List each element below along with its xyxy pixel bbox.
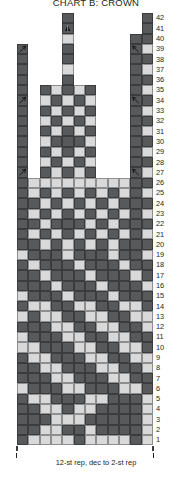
cell-dark [130, 157, 141, 167]
cell-light [108, 363, 119, 373]
cell-light [17, 311, 28, 321]
cell-light [119, 383, 130, 393]
cell-light [51, 435, 62, 445]
cell-no-stitch [28, 126, 39, 136]
cell-light [119, 435, 130, 445]
cell-light [96, 311, 107, 321]
cell-dark [85, 106, 96, 116]
cell-light [130, 383, 141, 393]
cell-light [142, 229, 153, 239]
cell-no-stitch [74, 13, 85, 23]
row-number: 15 [156, 292, 178, 299]
cell-light [62, 239, 73, 249]
cell-dark [17, 209, 28, 219]
cell-light [62, 322, 73, 332]
cell-dark [142, 342, 153, 352]
cell-light [40, 95, 51, 105]
cell-no-stitch [40, 64, 51, 74]
cell-no-stitch [85, 54, 96, 64]
cell-k2tog-decrease [130, 44, 141, 54]
cell-dark [74, 291, 85, 301]
cell-no-stitch [40, 44, 51, 54]
cell-light [74, 178, 85, 188]
cell-light [130, 353, 141, 363]
cell-light [85, 239, 96, 249]
cell-light [85, 157, 96, 167]
cell-no-stitch [108, 54, 119, 64]
row-number: 23 [156, 210, 178, 217]
cell-dark [142, 332, 153, 342]
cell-dark [74, 311, 85, 321]
cell-light [96, 178, 107, 188]
cell-dark [85, 281, 96, 291]
cell-ssk-decrease [17, 44, 28, 54]
cell-dark [40, 126, 51, 136]
cell-dark [28, 322, 39, 332]
row-number: 22 [156, 220, 178, 227]
cell-no-stitch [51, 64, 62, 74]
cell-no-stitch [130, 13, 141, 23]
cell-light [74, 188, 85, 198]
cell-dark [17, 188, 28, 198]
cell-no-stitch [85, 44, 96, 54]
cell-light [108, 178, 119, 188]
cell-light [108, 250, 119, 260]
cell-dark [40, 188, 51, 198]
cell-centered-double-decrease [62, 23, 73, 33]
cell-dark [62, 13, 73, 23]
cell-dark [96, 239, 107, 249]
cell-no-stitch [96, 34, 107, 44]
cell-dark [74, 198, 85, 208]
cell-dark [51, 383, 62, 393]
cell-no-stitch [28, 116, 39, 126]
cell-dark [62, 281, 73, 291]
cell-dark [108, 209, 119, 219]
cell-light [51, 209, 62, 219]
cell-no-stitch [51, 54, 62, 64]
cell-no-stitch [108, 95, 119, 105]
cell-dark [130, 219, 141, 229]
cell-dark [74, 363, 85, 373]
cell-dark [28, 404, 39, 414]
cell-dark [108, 311, 119, 321]
cell-dark [119, 239, 130, 249]
cell-light [40, 435, 51, 445]
cell-dark [130, 435, 141, 445]
cell-dark [96, 332, 107, 342]
cell-light [40, 270, 51, 280]
cell-dark [119, 414, 130, 424]
cell-dark [142, 260, 153, 270]
cell-dark [62, 126, 73, 136]
cell-dark [74, 281, 85, 291]
cell-dark [119, 219, 130, 229]
cell-dark [40, 322, 51, 332]
cell-dark [130, 332, 141, 342]
cell-dark [62, 301, 73, 311]
cell-dark [17, 322, 28, 332]
cell-light [51, 229, 62, 239]
cell-light [51, 425, 62, 435]
cell-dark [17, 353, 28, 363]
cell-dark [62, 229, 73, 239]
cell-dark [119, 198, 130, 208]
cell-light [62, 198, 73, 208]
cell-dark [40, 342, 51, 352]
cell-no-stitch [119, 167, 130, 177]
cell-dark [28, 425, 39, 435]
cell-dark [130, 54, 141, 64]
cell-light [74, 383, 85, 393]
cell-light [74, 301, 85, 311]
cell-dark [17, 157, 28, 167]
cell-dark [130, 116, 141, 126]
cell-dark [130, 250, 141, 260]
cell-light [62, 95, 73, 105]
cell-dark [108, 404, 119, 414]
cell-no-stitch [74, 54, 85, 64]
cell-dark [17, 404, 28, 414]
cell-light [119, 229, 130, 239]
cell-dark [85, 126, 96, 136]
cell-no-stitch [119, 13, 130, 23]
cell-no-stitch [96, 85, 107, 95]
cell-no-stitch [96, 64, 107, 74]
cell-no-stitch [85, 64, 96, 74]
